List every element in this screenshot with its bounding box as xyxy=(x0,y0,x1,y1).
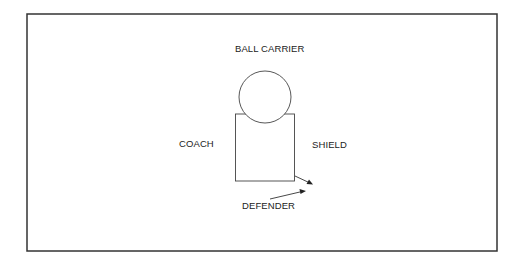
defender-arrow-head-icon xyxy=(300,189,307,194)
shield-label: SHIELD xyxy=(312,139,347,150)
defender-label: DEFENDER xyxy=(242,200,295,211)
coach-label: COACH xyxy=(179,138,214,149)
defender-arrow-line xyxy=(270,192,302,200)
shield-rectangle xyxy=(236,114,295,181)
diagram-canvas xyxy=(0,0,532,269)
ball-carrier-label: BALL CARRIER xyxy=(235,43,304,54)
ball-carrier-circle xyxy=(239,71,291,123)
